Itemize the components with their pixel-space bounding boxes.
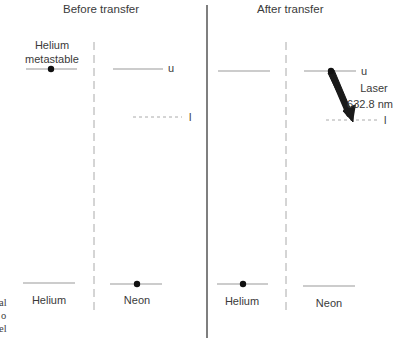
laser-wavelength-label: 632.8 nm [347, 98, 393, 110]
after-helium-ground-label: Helium [225, 295, 259, 307]
after-helium-electron [240, 281, 246, 287]
after-transfer-title: After transfer [257, 3, 323, 15]
before-neon-upper-label: u [168, 62, 174, 74]
laser-label-line1: Laser [360, 82, 388, 94]
after-neon-ground-label: Neon [316, 297, 342, 309]
after-neon-upper-label: u [361, 65, 367, 77]
clipped-caption-line2: o [1, 310, 6, 322]
helium-neon-energy-transfer-diagram: Before transfer After transfer Helium me… [0, 0, 396, 343]
clipped-caption-line3: el [0, 323, 7, 335]
before-neon-ground-label: Neon [124, 294, 150, 306]
before-neon-electron [134, 281, 140, 287]
after-neon-electron [328, 68, 334, 74]
before-helium-electron [48, 66, 54, 72]
before-neon-lower-label: l [189, 111, 191, 123]
laser-transition-arrow-icon [328, 70, 356, 122]
before-helium-metastable-label-line1: Helium [35, 39, 69, 51]
clipped-caption-line1: al [0, 297, 7, 309]
diagram-graphics [0, 0, 396, 343]
before-helium-metastable-label-line2: metastable [25, 53, 79, 65]
after-neon-lower-label: l [384, 114, 386, 126]
before-transfer-title: Before transfer [63, 3, 139, 15]
before-helium-ground-label: Helium [32, 294, 66, 306]
